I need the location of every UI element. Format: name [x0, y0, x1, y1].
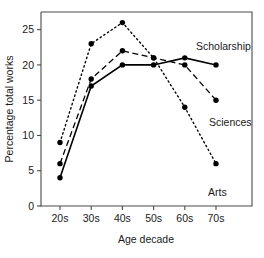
y-tick-label: 20: [22, 59, 34, 71]
data-point-sciences-40s: [120, 48, 125, 53]
x-tick-label: 60s: [176, 212, 193, 224]
data-point-sciences-20s: [57, 161, 62, 166]
y-tick-label: 25: [22, 23, 34, 35]
data-point-arts-40s: [120, 20, 125, 25]
data-point-sciences-70s: [213, 97, 218, 102]
y-axis-title: Percentage total works: [3, 56, 15, 163]
data-point-scholarship-50s: [151, 62, 156, 67]
x-tick-label: 50s: [145, 212, 162, 224]
data-point-sciences-60s: [182, 62, 187, 67]
data-point-scholarship-70s: [213, 62, 218, 67]
series-line-arts: [60, 23, 216, 164]
series-group: [57, 20, 218, 181]
y-tick-label: 15: [22, 94, 34, 106]
line-chart: 0510152025 20s30s40s50s60s70s ArtsScienc…: [0, 0, 264, 258]
chart-figure: 0510152025 20s30s40s50s60s70s ArtsScienc…: [0, 0, 264, 258]
series-label-sciences: Sciences: [209, 116, 252, 128]
data-point-sciences-50s: [151, 55, 156, 60]
data-point-arts-60s: [182, 105, 187, 110]
data-point-arts-70s: [213, 161, 218, 166]
x-tick-label: 70s: [208, 212, 225, 224]
y-tick-label: 0: [28, 200, 34, 212]
data-point-scholarship-20s: [57, 175, 62, 180]
y-tick-label: 5: [28, 164, 34, 176]
series-line-scholarship: [60, 58, 216, 178]
data-point-scholarship-40s: [120, 62, 125, 67]
series-labels: ArtsSciencesScholarship: [196, 40, 252, 198]
x-tick-label: 20s: [52, 212, 69, 224]
x-tick-label: 40s: [114, 212, 131, 224]
x-tick-label: 30s: [83, 212, 100, 224]
data-point-arts-20s: [57, 140, 62, 145]
x-axis-ticks: 20s30s40s50s60s70s: [52, 206, 225, 224]
data-point-arts-30s: [89, 41, 94, 46]
data-point-sciences-30s: [89, 76, 94, 81]
data-point-scholarship-60s: [182, 55, 187, 60]
y-tick-label: 10: [22, 129, 34, 141]
data-point-scholarship-30s: [89, 83, 94, 88]
x-axis-title: Age decade: [118, 233, 174, 245]
y-axis-ticks: 0510152025: [22, 23, 41, 211]
series-label-arts: Arts: [208, 186, 227, 198]
series-label-scholarship: Scholarship: [196, 40, 251, 52]
